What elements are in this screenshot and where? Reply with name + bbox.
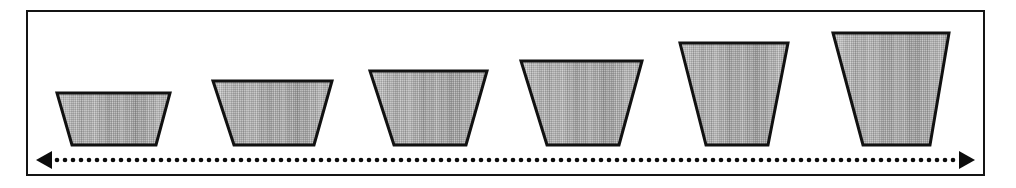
trapezoid-6[interactable] <box>833 33 949 145</box>
trapezoid-5[interactable] <box>680 43 788 145</box>
trapezoid-3[interactable] <box>370 71 487 145</box>
trapezoid-1[interactable] <box>57 93 170 145</box>
diagram-canvas <box>0 0 1016 188</box>
trapezoid-4[interactable] <box>521 61 642 145</box>
dotted-arrow-group <box>36 151 975 169</box>
trapezoid-group <box>57 33 949 145</box>
figure-root: Progression of six inverted trapezoids i… <box>0 0 1016 188</box>
dotted-double-arrow <box>36 151 975 169</box>
trapezoid-2[interactable] <box>213 81 332 145</box>
